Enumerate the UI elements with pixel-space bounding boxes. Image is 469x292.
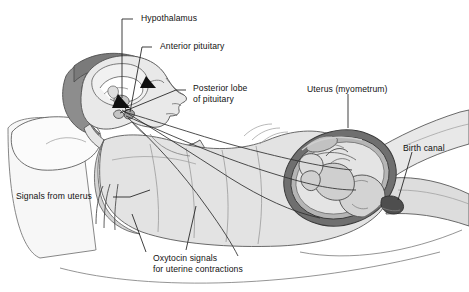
label-signals-from-uterus: Signals from uterus — [16, 191, 92, 202]
label-posterior-lobe-line2: of pituitary — [193, 94, 269, 105]
label-posterior-lobe-of-pituitary: Posterior lobe of pituitary — [193, 83, 269, 104]
label-posterior-lobe-line1: Posterior lobe — [193, 83, 269, 94]
anatomical-illustration — [0, 0, 469, 292]
label-hypothalamus: Hypothalamus — [141, 13, 197, 24]
label-uterus-myometrium: Uterus (myometrum) — [307, 84, 388, 95]
label-birth-canal: Birth canal — [403, 143, 445, 154]
label-oxytocin-signals: Oxytocin signals for uterine contraction… — [153, 253, 283, 274]
label-anterior-pituitary: Anterior pituitary — [160, 41, 224, 52]
label-oxytocin-line1: Oxytocin signals — [153, 253, 283, 264]
figure-canvas: Hypothalamus Anterior pituitary Posterio… — [0, 0, 469, 292]
label-oxytocin-line2: for uterine contractions — [153, 264, 283, 275]
